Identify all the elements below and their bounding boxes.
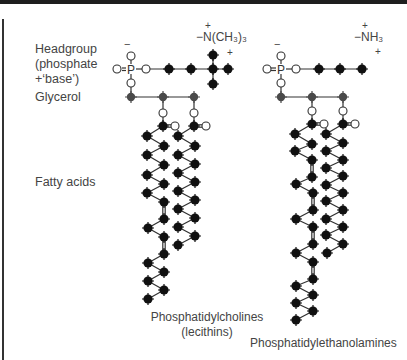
oxygen-icon: [320, 120, 328, 128]
phosphatidylcholine-structure: [122, 55, 228, 299]
oxygen-icon: [127, 52, 135, 60]
oxygen-icon: [159, 109, 167, 117]
oxygen-icon: [171, 122, 179, 130]
svg-text:P: P: [127, 63, 135, 77]
oxygen-icon: [308, 107, 316, 115]
oxygen-icon: [127, 79, 135, 87]
oxygen-icon: [277, 79, 285, 87]
phosphatidylethanolamine-atoms: P: [263, 52, 368, 326]
oxygen-icon: [277, 52, 285, 60]
caption-phosphatidylethanolamines: Phosphatidylethanolamines: [250, 336, 390, 350]
svg-text:P: P: [277, 63, 285, 77]
oxygen-icon: [202, 122, 210, 130]
oxygen-icon: [263, 65, 271, 73]
oxygen-icon: [190, 109, 198, 117]
oxygen-icon: [113, 65, 121, 73]
oxygen-icon: [339, 107, 347, 115]
phospholipid-structures: P: [0, 0, 407, 360]
caption-phosphatidylcholines: Phosphatidylcholines: [140, 310, 274, 324]
oxygen-icon: [142, 65, 150, 73]
oxygen-icon: [351, 120, 359, 128]
phosphatidylcholine-atoms: P: [113, 49, 234, 305]
oxygen-icon: [292, 65, 300, 73]
